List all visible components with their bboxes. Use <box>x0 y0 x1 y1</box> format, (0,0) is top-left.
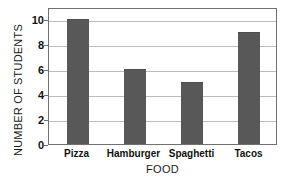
y-tick-mark-6 <box>44 70 48 71</box>
y-tick-label-6: 6 <box>26 65 44 75</box>
y-axis-tick-labels: 0246810 <box>26 8 44 145</box>
y-tick-mark-0 <box>44 145 48 146</box>
category-label-pizza: Pizza <box>48 147 105 161</box>
bar-pizza <box>67 19 89 144</box>
y-tick-label-10: 10 <box>26 15 44 25</box>
y-tick-label-2: 2 <box>26 115 44 125</box>
bar-chart: NUMBER OF STUDENTS 0246810 PizzaHamburge… <box>0 0 292 182</box>
bar-hamburger <box>124 69 146 144</box>
y-tick-label-4: 4 <box>26 90 44 100</box>
x-axis-category-labels: PizzaHamburgerSpaghettiTacos <box>48 147 277 161</box>
category-label-hamburger: Hamburger <box>105 147 162 161</box>
bar-tacos <box>238 32 260 144</box>
y-axis-title: NUMBER OF STUDENTS <box>10 20 26 160</box>
y-tick-mark-10 <box>44 20 48 21</box>
bar-spaghetti <box>181 82 203 144</box>
y-tick-mark-2 <box>44 120 48 121</box>
plot-area <box>49 9 276 144</box>
category-label-tacos: Tacos <box>220 147 277 161</box>
category-label-spaghetti: Spaghetti <box>163 147 220 161</box>
y-tick-mark-8 <box>44 45 48 46</box>
y-tick-mark-4 <box>44 95 48 96</box>
x-axis-title: FOOD <box>48 163 277 176</box>
y-tick-label-0: 0 <box>26 140 44 150</box>
plot-frame <box>48 8 277 145</box>
y-tick-label-8: 8 <box>26 40 44 50</box>
